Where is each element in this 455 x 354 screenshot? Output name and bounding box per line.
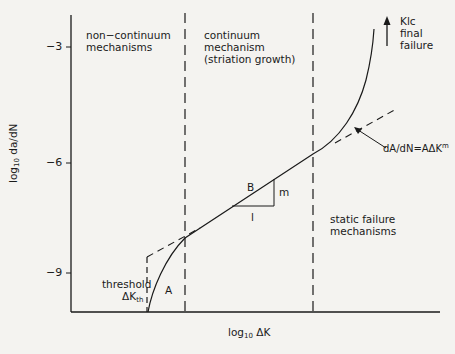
paris-law-equation: dA/dN=AΔKm bbox=[383, 140, 449, 155]
fatigue-crack-growth-diagram: −3 −6 −9 log10 da/dN log10 ΔK non−contin… bbox=[0, 0, 455, 354]
region-label-static-failure: static failure mechanisms bbox=[330, 213, 396, 237]
slope-run-label: l bbox=[251, 211, 254, 223]
crack-growth-curve bbox=[148, 29, 374, 312]
y-tick-label-minus6: −6 bbox=[46, 156, 62, 169]
y-axis-label: log10 da/dN bbox=[7, 124, 21, 183]
region-b-label: B bbox=[247, 181, 254, 193]
final-failure-label: Klc final failure bbox=[400, 15, 433, 51]
threshold-label: threshold ΔKth bbox=[102, 278, 151, 306]
y-tick-label-minus9: −9 bbox=[46, 266, 62, 279]
final-failure-arrow-icon bbox=[384, 16, 391, 25]
region-label-non-continuum: non−continuum mechanisms bbox=[86, 29, 171, 53]
y-tick-label-minus3: −3 bbox=[46, 40, 62, 53]
x-axis-label: log10 ΔK bbox=[228, 326, 270, 342]
region-label-continuum: continuum mechanism (striation growth) bbox=[204, 29, 295, 65]
region-a-label: A bbox=[165, 284, 172, 296]
slope-m-label: m bbox=[279, 186, 289, 198]
